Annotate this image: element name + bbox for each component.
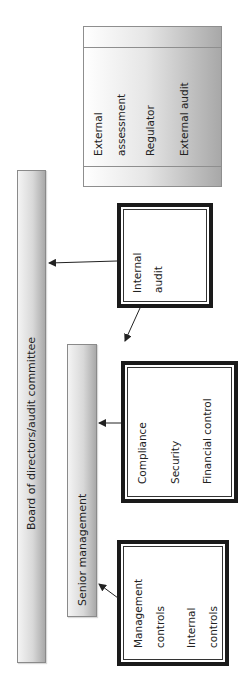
connector-arrows xyxy=(0,0,249,695)
arrow-internal-audit-to-senior-management xyxy=(125,308,140,341)
arrow-management-to-senior-management xyxy=(99,584,118,598)
arrow-internal-audit-to-board xyxy=(49,261,117,263)
